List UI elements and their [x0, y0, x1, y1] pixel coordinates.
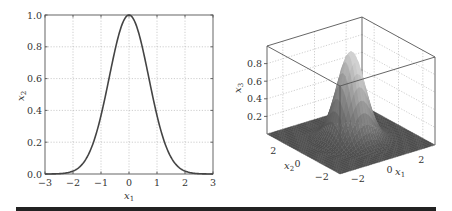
left-x-axis-label: x1: [124, 190, 134, 203]
y-tick-label: 0.6: [27, 73, 42, 84]
x-tick-label: −2: [66, 177, 80, 188]
right-x1-axis-label: x1: [395, 166, 405, 179]
line-chart-gaussian: −3−2−101230.00.20.40.60.81.0: [27, 10, 216, 189]
z-tick-label: 0.2: [247, 111, 262, 122]
x-tick-label: 1: [154, 177, 160, 188]
y-tick-label: 0.8: [27, 41, 42, 52]
bottom-rule: [16, 207, 436, 211]
y-tick-label: 0.4: [27, 105, 42, 116]
x-tick-label: −1: [94, 177, 108, 188]
x2-tick-label: 0: [294, 158, 300, 169]
surface-chart-gaussian: 0.20.40.60.8−202−202: [247, 17, 435, 184]
box-edge: [267, 46, 340, 86]
x-tick-label: 0: [126, 177, 132, 188]
y-tick-label: 0.2: [27, 137, 42, 148]
z-tick-label: 0.8: [247, 58, 262, 69]
y-tick-label: 0.0: [27, 169, 42, 180]
grid-line-wall: [362, 52, 435, 92]
x1-tick-label: 0: [386, 164, 392, 175]
right-x2-axis-label: x2: [284, 160, 294, 173]
right-x3-axis-label: x3: [232, 83, 245, 93]
box-edge: [267, 17, 362, 46]
x1-tick-label: −2: [351, 173, 365, 184]
x2-tick-label: −2: [315, 171, 329, 182]
x-tick-label: 3: [210, 177, 216, 188]
x1-tick-label: 2: [418, 154, 424, 165]
z-tick-label: 0.6: [247, 76, 262, 87]
left-y-axis-label: x2: [15, 91, 28, 101]
y-tick-label: 1.0: [27, 10, 42, 21]
z-tick-label: 0.4: [247, 93, 262, 104]
surface-mesh: [267, 52, 435, 175]
figure: −3−2−101230.00.20.40.60.81.0 0.20.40.60.…: [0, 0, 452, 211]
x-tick-label: 2: [182, 177, 188, 188]
x2-tick-label: 2: [270, 145, 276, 156]
